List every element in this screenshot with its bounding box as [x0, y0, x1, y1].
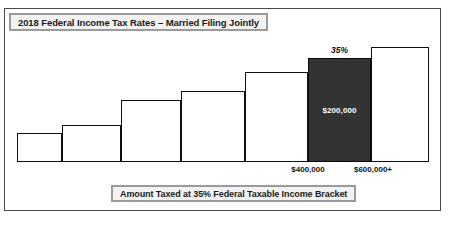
axis-label-400000: $400,000	[278, 165, 338, 174]
bar-bracket-3	[121, 100, 181, 162]
bar-value-label: $200,000	[309, 106, 370, 115]
bar-bracket-6-highlighted: $200,000	[308, 58, 371, 162]
chart-caption-plate: Amount Taxed at 35% Federal Taxable Inco…	[111, 185, 356, 202]
bar-bracket-7	[371, 47, 429, 162]
bar-bracket-4	[181, 91, 245, 162]
bar-bracket-5	[245, 72, 308, 162]
bar-bracket-2	[62, 125, 121, 162]
axis-label-600000-plus: $600,000+	[341, 165, 405, 174]
rate-annotation-35-percent: 35%	[308, 45, 371, 55]
bar-bracket-1	[17, 133, 62, 162]
